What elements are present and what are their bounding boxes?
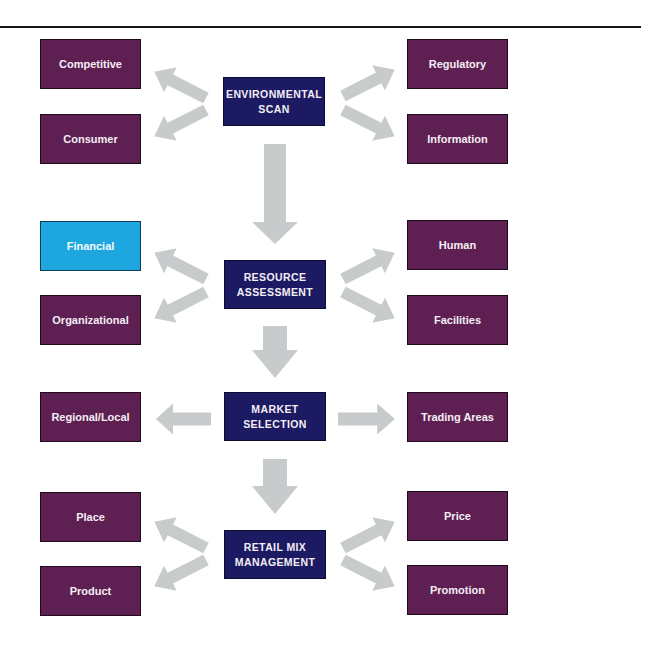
- arrow-left-icon: [156, 404, 211, 435]
- arrow-down-left-icon: [148, 280, 212, 331]
- stage-environmental-scan: ENVIRONMENTAL SCAN: [223, 77, 325, 126]
- stage-market-selection: MARKET SELECTION: [224, 392, 326, 441]
- arrow-up-right-icon: [337, 509, 401, 560]
- arrow-up-left-icon: [148, 59, 212, 110]
- arrow-down-right-icon: [337, 280, 401, 331]
- arrow-down-right-icon: [337, 548, 401, 599]
- arrow-down-icon: [252, 326, 298, 378]
- arrow-up-left-icon: [148, 240, 212, 291]
- arrow-up-right-icon: [337, 240, 401, 291]
- stage-resource-assessment: RESOURCE ASSESSMENT: [224, 260, 326, 309]
- arrow-down-left-icon: [148, 98, 212, 149]
- arrow-up-left-icon: [148, 509, 212, 560]
- arrow-down-icon: [252, 459, 298, 514]
- factor-place: Place: [40, 492, 141, 542]
- factor-regional-local: Regional/Local: [40, 392, 141, 442]
- factor-facilities: Facilities: [407, 295, 508, 345]
- stage-retail-mix-management: RETAIL MIX MANAGEMENT: [224, 530, 326, 579]
- factor-organizational: Organizational: [40, 295, 141, 345]
- factor-price: Price: [407, 491, 508, 541]
- arrow-down-right-icon: [337, 98, 401, 149]
- factor-promotion: Promotion: [407, 565, 508, 615]
- factor-trading-areas: Trading Areas: [407, 392, 508, 442]
- arrow-down-left-icon: [148, 548, 212, 599]
- arrow-up-right-icon: [337, 57, 401, 108]
- arrow-down-icon: [252, 144, 298, 244]
- factor-regulatory: Regulatory: [407, 39, 508, 89]
- factor-product: Product: [40, 566, 141, 616]
- factor-competitive: Competitive: [40, 39, 141, 89]
- factor-financial: Financial: [40, 221, 141, 271]
- factor-consumer: Consumer: [40, 114, 141, 164]
- factor-human: Human: [407, 220, 508, 270]
- arrow-right-icon: [338, 404, 395, 435]
- factor-information: Information: [407, 114, 508, 164]
